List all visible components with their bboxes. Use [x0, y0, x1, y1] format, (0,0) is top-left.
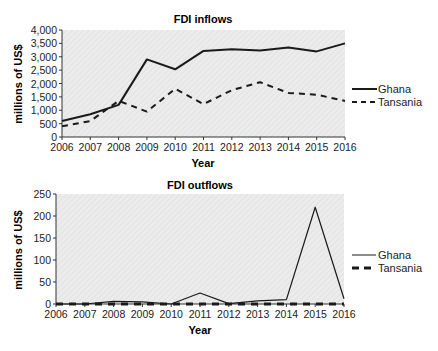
x-tick-label: 2016	[332, 308, 356, 320]
y-tick-label: 100	[33, 254, 51, 266]
outflows-chart: FDI outflows 050100150200250 20062007200…	[12, 179, 423, 336]
outflows-plot-area	[56, 194, 344, 304]
y-tick-label: 2,000	[31, 78, 57, 90]
outflows-y-label: millions of US$	[12, 210, 24, 289]
legend-ghana: Ghana	[378, 249, 412, 261]
x-tick-label: 2015	[304, 308, 328, 320]
x-tick-label: 2013	[248, 141, 272, 153]
outflows-title: FDI outflows	[167, 179, 233, 191]
x-tick-label: 2014	[275, 308, 299, 320]
legend-tansania: Tansania	[378, 262, 423, 274]
x-tick-label: 2012	[220, 141, 244, 153]
y-tick-label: 3,500	[31, 37, 57, 49]
x-tick-label: 2012	[217, 308, 241, 320]
y-tick-label: 500	[39, 118, 57, 130]
x-tick-label: 2013	[246, 308, 270, 320]
x-tick-label: 2011	[192, 141, 215, 153]
outflows-legend: Ghana Tansania	[352, 249, 423, 274]
inflows-y-axis: 05001,0001,5002,0002,5003,0003,5004,000	[31, 24, 62, 143]
y-tick-label: 2,500	[31, 64, 57, 76]
legend-ghana: Ghana	[378, 83, 412, 95]
x-tick-label: 2007	[73, 308, 97, 320]
legend-tansania: Tansania	[378, 96, 423, 108]
y-tick-label: 200	[33, 210, 51, 222]
y-tick-label: 250	[33, 188, 51, 200]
x-tick-label: 2014	[277, 141, 301, 153]
x-tick-label: 2009	[131, 308, 155, 320]
outflows-x-axis: 2006200720082009201020112012201320142015…	[44, 304, 356, 320]
x-tick-label: 2011	[189, 308, 212, 320]
x-tick-label: 2008	[107, 141, 131, 153]
inflows-x-axis: 2006200720082009201020112012201320142015…	[50, 137, 357, 153]
y-tick-label: 50	[39, 276, 51, 288]
x-tick-label: 2015	[305, 141, 329, 153]
inflows-legend: Ghana Tansania	[352, 83, 423, 108]
x-tick-label: 2007	[79, 141, 103, 153]
inflows-y-label: millions of US$	[12, 44, 24, 123]
y-tick-label: 1,000	[31, 104, 57, 116]
y-tick-label: 150	[33, 232, 51, 244]
x-tick-label: 2010	[164, 141, 188, 153]
fdi-charts: FDI inflows 05001,0001,5002,0002,5003,00…	[0, 0, 438, 351]
x-tick-label: 2006	[44, 308, 68, 320]
y-tick-label: 4,000	[31, 24, 57, 36]
inflows-plot-area	[62, 30, 345, 137]
inflows-title: FDI inflows	[174, 13, 233, 25]
x-tick-label: 2010	[160, 308, 184, 320]
y-tick-label: 3,000	[31, 51, 57, 63]
x-tick-label: 2008	[102, 308, 126, 320]
inflows-chart: FDI inflows 05001,0001,5002,0002,5003,00…	[12, 13, 423, 169]
x-tick-label: 2006	[50, 141, 74, 153]
outflows-x-label: Year	[188, 324, 212, 336]
y-tick-label: 1,500	[31, 91, 57, 103]
x-tick-label: 2009	[135, 141, 159, 153]
x-tick-label: 2016	[333, 141, 357, 153]
outflows-y-axis: 050100150200250	[33, 188, 56, 310]
inflows-x-label: Year	[191, 157, 215, 169]
